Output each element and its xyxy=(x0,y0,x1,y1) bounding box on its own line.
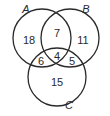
region-a-b-c: 4 xyxy=(54,50,60,62)
region-a-and-b: 7 xyxy=(54,27,60,39)
region-b-and-c: 5 xyxy=(69,55,75,67)
set-label-b: B xyxy=(82,3,89,15)
region-b-only: 11 xyxy=(77,34,88,46)
venn-diagram: A B C 18 11 7 6 4 5 15 xyxy=(0,0,110,116)
set-label-a: A xyxy=(21,3,29,15)
region-c-only: 15 xyxy=(51,76,63,88)
region-a-and-c: 6 xyxy=(38,55,44,67)
region-a-only: 18 xyxy=(23,34,35,46)
set-label-c: C xyxy=(65,99,73,111)
